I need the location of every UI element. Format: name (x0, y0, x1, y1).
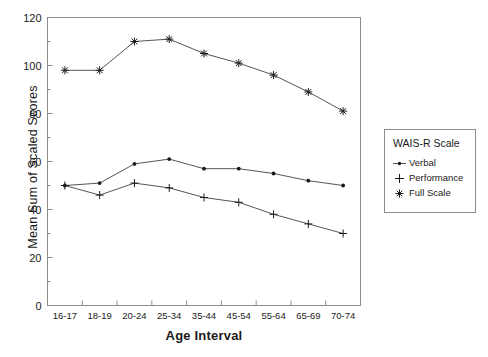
legend-entry-full-scale: Full Scale (393, 185, 475, 200)
plus-marker-icon (393, 171, 406, 184)
svg-text:55-64: 55-64 (261, 310, 285, 321)
plot-frame (48, 18, 361, 306)
svg-text:25-34: 25-34 (157, 310, 181, 321)
svg-text:70-74: 70-74 (331, 310, 355, 321)
svg-text:18-19: 18-19 (88, 310, 112, 321)
y-axis-tick-labels: 020406080100120 (23, 12, 41, 312)
svg-text:65-69: 65-69 (296, 310, 320, 321)
x-axis-ticks (82, 301, 325, 306)
legend-entry-verbal: Verbal (393, 155, 475, 170)
svg-text:100: 100 (23, 60, 41, 72)
svg-text:80: 80 (29, 108, 41, 120)
svg-text:60: 60 (29, 156, 41, 168)
dot-marker-icon (393, 156, 406, 169)
svg-text:35-44: 35-44 (192, 310, 216, 321)
legend-label-full-scale: Full Scale (409, 187, 451, 198)
svg-text:20: 20 (29, 252, 41, 264)
svg-text:40: 40 (29, 204, 41, 216)
svg-text:0: 0 (35, 300, 41, 312)
legend-box: WAIS-R Scale Verbal Performance Full Sca… (384, 129, 476, 213)
legend-title: WAIS-R Scale (393, 137, 475, 149)
svg-text:45-54: 45-54 (227, 310, 251, 321)
svg-text:120: 120 (23, 12, 41, 24)
data-series-layer (61, 35, 347, 237)
svg-text:20-24: 20-24 (122, 310, 146, 321)
x-axis-tick-labels: 16-1718-1920-2425-3435-4445-5455-6465-69… (53, 310, 356, 321)
legend-label-performance: Performance (409, 172, 463, 183)
chart-figure: Mean Sum of Scaled Scores Age Interval 0… (0, 0, 488, 357)
legend-label-verbal: Verbal (409, 157, 436, 168)
svg-text:16-17: 16-17 (53, 310, 77, 321)
legend-entry-performance: Performance (393, 170, 475, 185)
y-axis-ticks (48, 18, 53, 306)
star-marker-icon (393, 186, 406, 199)
